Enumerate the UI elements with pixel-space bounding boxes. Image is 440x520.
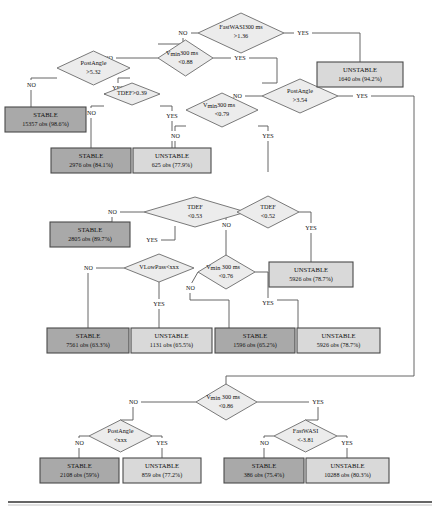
edge-d9-no [88,268,124,328]
leaf-node-stable-1596[interactable]: STABLE 1596 obs (65.2%) [215,328,295,353]
leaf-node-unstable-859-label: UNSTABLE [145,462,179,469]
leaf-node-unstable-1640-label: UNSTABLE [343,66,377,73]
edge-label-d1-no: NO [179,30,188,36]
leaf-node-unstable-10288[interactable]: UNSTABLE 10288 obs (80.3%) [306,458,389,483]
decision-node-postangle-354-line1: PostAngle [287,87,313,94]
edge-label-d6-yes: YES [262,133,274,139]
decision-node-tdef-052[interactable]: TDEF <0.52 [237,196,299,228]
edge-label-d12-yes: YES [156,440,168,446]
edge-label-d11-no: NO [129,399,138,405]
edge-d8-no [226,212,237,258]
edge-label-d2-yes: YES [234,55,246,61]
decision-node-vmin300-086-line2: <0.86 [219,402,233,409]
leaf-node-unstable-5926-lower-stat: 5926 obs (78.7%) [317,342,361,349]
decision-node-vlowpass-line1: VLowPass<xxx [139,263,179,270]
leaf-node-unstable-5926-upper-label: UNSTABLE [294,266,328,273]
decision-node-vmin300-079-line2: <0.79 [215,110,229,117]
leaf-node-stable-15357-label: STABLE [33,111,57,118]
leaf-node-unstable-1640[interactable]: UNSTABLE 1640 obs (94.2%) [317,62,403,87]
decision-node-fastwasi-381-line2: <-3.81 [297,436,313,443]
leaf-node-unstable-5926-upper-stat: 5926 obs (78.7%) [289,276,333,283]
leaf-node-stable-1596-label: STABLE [243,332,267,339]
decision-node-vmin300-076[interactable]: Vmin 300 ms <0.76 [198,255,255,289]
leaf-node-unstable-625-label: UNSTABLE [155,152,189,159]
leaf-node-stable-7561[interactable]: STABLE 7561 obs (63.3%) [47,328,129,353]
leaf-node-unstable-625[interactable]: UNSTABLE 625 obs (77.9%) [133,148,211,173]
leaf-node-stable-2976-stat: 2976 obs (84.1%) [69,162,113,169]
leaf-node-unstable-1640-stat: 1640 obs (94.2%) [338,76,382,83]
decision-node-vlowpass[interactable]: VLowPass<xxx [124,254,194,282]
decision-tree-figure: NO YES NO YES NO YES NO YES NO YES NO YE… [0,0,440,520]
leaf-node-stable-1596-stat: 1596 obs (65.2%) [233,342,277,349]
decision-node-fastwasi300-line2: >1.36 [234,32,248,39]
leaf-node-stable-2805[interactable]: STABLE 2805 obs (89.7%) [50,222,130,247]
leaf-node-stable-386-label: STABLE [252,462,276,469]
decision-node-postangle-xxx[interactable]: PostAngle <xxx [89,420,152,452]
edge-label-d12-no: NO [75,440,84,446]
decision-node-vmin300-088[interactable]: Vmin300 ms <0.88 [158,40,213,76]
leaf-node-unstable-1131-stat: 1131 obs (65.5%) [150,342,193,349]
leaf-node-stable-2976[interactable]: STABLE 2976 obs (84.1%) [51,148,131,173]
leaf-node-stable-2108[interactable]: STABLE 2108 obs (59%) [40,458,119,483]
leaf-node-unstable-5926-lower[interactable]: UNSTABLE 5926 obs (78.7%) [297,328,380,353]
edge-label-d7-no: NO [108,209,117,215]
decision-node-fastwasi-381[interactable]: FastWASI <-3.81 [274,420,337,452]
decision-node-vmin300-088-line2: <0.88 [178,58,192,65]
edge-label-d10-no: NO [186,285,195,291]
leaf-node-unstable-1131[interactable]: UNSTABLE 1131 obs (65.5%) [131,328,212,353]
leaf-node-stable-2805-stat: 2805 obs (89.7%) [68,236,112,243]
leaf-node-unstable-1131-label: UNSTABLE [155,332,189,339]
leaf-node-stable-15357-stat: 15357 obs (98.6%) [22,121,69,128]
edge-label-d9-no: NO [84,265,93,271]
leaf-node-unstable-859[interactable]: UNSTABLE 859 obs (77.2%) [123,458,201,483]
edge-label-d6-no: NO [171,133,180,139]
decision-node-tdef-039-line1: TDEF>0.39 [117,89,147,96]
leaf-node-stable-7561-label: STABLE [76,332,100,339]
decision-node-fastwasi300-line1: FastWASI300 ms [219,23,263,30]
edge-label-d13-no: NO [260,440,269,446]
leaf-node-unstable-5926-lower-label: UNSTABLE [322,332,356,339]
decision-node-tdef-052-line2: <0.52 [261,212,275,219]
edge-label-d3-no: NO [27,82,36,88]
leaf-node-stable-386-stat: 386 obs (75.4%) [244,472,284,479]
decision-tree-svg: NO YES NO YES NO YES NO YES NO YES NO YE… [0,0,440,520]
edge-label-d8-yes: YES [305,225,317,231]
decision-node-vmin300-086[interactable]: Vmin 300 ms <0.86 [196,384,257,420]
edge-d8-yes [299,212,311,262]
edge-label-d8-no: NO [222,222,231,228]
leaf-node-stable-386[interactable]: STABLE 386 obs (75.4%) [224,458,304,483]
edge-label-d13-yes: YES [341,440,353,446]
edge-label-d11-yes: YES [312,399,324,405]
edge-label-d1-yes: YES [297,30,309,36]
decision-node-vmin300-079[interactable]: Vmin300 ms <0.79 [186,93,258,127]
leaf-node-unstable-625-stat: 625 obs (77.9%) [152,162,192,169]
decision-node-fastwasi-381-line1: FastWASI [293,427,318,434]
leaf-node-unstable-859-stat: 859 obs (77.2%) [142,472,182,479]
decision-node-postangle-xxx-line1: PostAngle [108,427,134,434]
edge-label-d5-yes: YES [356,93,368,99]
decision-node-postangle-354-line2: >3.54 [293,96,307,103]
decision-node-postangle-532[interactable]: PostAngle >5.32 [57,51,130,85]
leaf-node-unstable-5926-upper[interactable]: UNSTABLE 5926 obs (78.7%) [269,262,353,287]
decision-node-tdef-053-line2: <0.53 [188,212,202,219]
leaf-node-unstable-10288-stat: 10288 obs (80.3%) [324,472,371,479]
edge-label-d4-no: NO [87,110,96,116]
edge-d11-yes [257,402,318,420]
decision-node-tdef-052-line1: TDEF [260,203,276,210]
decision-node-vmin300-076-line2: <0.76 [219,272,233,279]
decision-node-postangle-532-line2: >5.32 [86,68,100,75]
decision-node-postangle-xxx-line2: <xxx [114,436,128,443]
leaf-node-stable-2805-label: STABLE [78,226,102,233]
decision-node-postangle-532-line1: PostAngle [81,59,107,66]
edge-label-d10-yes: YES [262,300,274,306]
edge-label-d4-yes: YES [166,113,178,119]
edge-d7-yes [159,226,175,240]
leaf-node-stable-15357[interactable]: STABLE 15357 obs (98.6%) [5,107,86,132]
leaf-node-stable-7561-stat: 7561 obs (63.3%) [66,342,110,349]
edge-label-d9-yes: YES [153,301,165,307]
leaf-node-stable-2976-label: STABLE [79,152,103,159]
leaf-node-stable-2108-stat: 2108 obs (59%) [60,472,99,479]
decision-node-fastwasi300[interactable]: FastWASI300 ms >1.36 [198,13,284,53]
leaf-node-stable-2108-label: STABLE [67,462,91,469]
edge-label-d7-yes: YES [146,237,158,243]
